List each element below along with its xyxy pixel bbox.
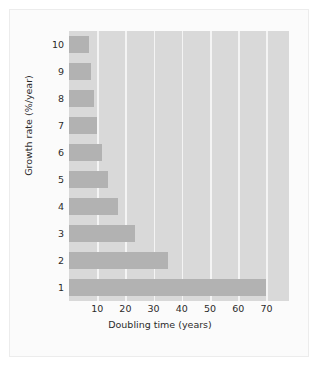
y-axis-title: Growth rate (%/year) <box>23 56 34 196</box>
y-tick-3: 3 <box>58 229 64 239</box>
x-tick-10: 10 <box>91 303 103 314</box>
y-axis-tick-labels: 10987654321 <box>30 31 64 301</box>
figure-card: 10987654321 Growth rate (%/year) 1020304… <box>9 9 309 357</box>
bar-row <box>69 144 289 161</box>
y-tick-2: 2 <box>58 256 64 266</box>
bar-8 <box>69 90 94 107</box>
bar-4 <box>69 198 118 215</box>
bar-row <box>69 36 289 53</box>
bar-row <box>69 63 289 80</box>
plot-area <box>69 31 289 301</box>
y-tick-8: 8 <box>58 94 64 104</box>
x-tick-50: 50 <box>204 303 216 314</box>
y-tick-4: 4 <box>58 202 64 212</box>
bar-1 <box>69 279 266 296</box>
y-tick-5: 5 <box>58 175 64 185</box>
bar-row <box>69 198 289 215</box>
bar-row <box>69 171 289 188</box>
bar-row <box>69 225 289 242</box>
bar-9 <box>69 63 91 80</box>
bar-row <box>69 117 289 134</box>
x-tick-40: 40 <box>176 303 188 314</box>
bar-6 <box>69 144 102 161</box>
y-tick-10: 10 <box>52 40 64 50</box>
bar-2 <box>69 252 168 269</box>
x-axis-title: Doubling time (years) <box>10 319 310 330</box>
bar-row <box>69 90 289 107</box>
y-tick-7: 7 <box>58 121 64 131</box>
x-tick-20: 20 <box>119 303 131 314</box>
bar-10 <box>69 36 89 53</box>
y-tick-1: 1 <box>58 283 64 293</box>
y-tick-6: 6 <box>58 148 64 158</box>
bar-row <box>69 279 289 296</box>
x-axis-tick-labels: 10203040506070 <box>69 303 289 317</box>
bar-7 <box>69 117 97 134</box>
bar-3 <box>69 225 135 242</box>
x-tick-60: 60 <box>232 303 244 314</box>
bar-5 <box>69 171 108 188</box>
y-tick-9: 9 <box>58 67 64 77</box>
x-tick-70: 70 <box>260 303 272 314</box>
bar-row <box>69 252 289 269</box>
x-tick-30: 30 <box>148 303 160 314</box>
